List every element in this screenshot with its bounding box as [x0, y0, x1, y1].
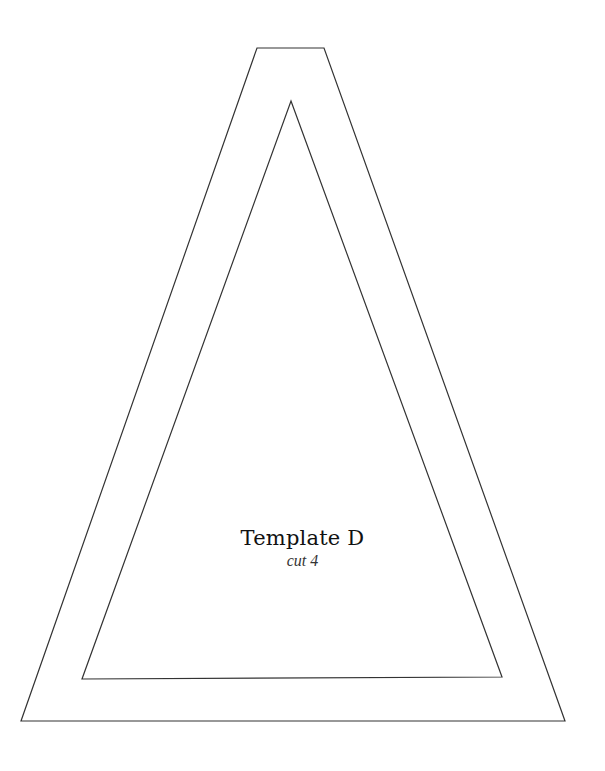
inner-triangle [82, 101, 502, 679]
template-outline [0, 0, 605, 771]
cut-instruction: cut 4 [0, 552, 605, 570]
outer-trapezoid [21, 48, 565, 721]
template-title: Template D [0, 526, 605, 550]
